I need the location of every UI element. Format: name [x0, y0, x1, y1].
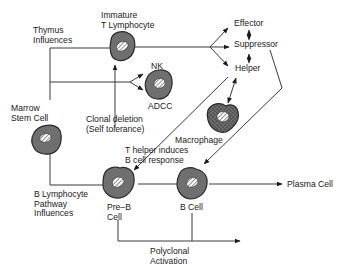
- b-cell-label: B Cell: [180, 203, 203, 213]
- immature-t-lymphocyte-cell: [110, 32, 135, 61]
- polyclonal-activation-label: Polyclonal Activation: [150, 247, 189, 266]
- b-lymphocyte-pathway-label: B Lymphocyte Pathway Influences: [34, 190, 88, 219]
- pre-b-cell: [103, 167, 134, 198]
- clonal-deletion-label: Clonal deletion (Self tolerance): [86, 115, 144, 134]
- macrophage-cell: [207, 104, 238, 133]
- t-helper-induces-label: T helper induces B cell response: [125, 146, 188, 165]
- plasma-cell-label: Plasma Cell: [287, 180, 333, 190]
- marrow-stem-cell-label: Marrow Stem Cell: [11, 104, 48, 123]
- effector-label: Effector: [234, 19, 263, 29]
- b-cell: [177, 168, 207, 199]
- marrow-stem-cell: [32, 125, 61, 154]
- suppressor-label: Suppressor: [234, 40, 278, 50]
- immature-t-lymphocyte-label: Immature T Lymphocyte: [101, 11, 155, 30]
- nk-label: NK: [151, 62, 163, 72]
- pre-b-cell-label: Pre–B Cell: [107, 203, 131, 222]
- nk-cell: [145, 70, 172, 99]
- helper-label: Helper: [235, 64, 260, 74]
- adcc-label: ADCC: [148, 102, 172, 112]
- thymus-influences-label: Thymus Influences: [33, 26, 72, 45]
